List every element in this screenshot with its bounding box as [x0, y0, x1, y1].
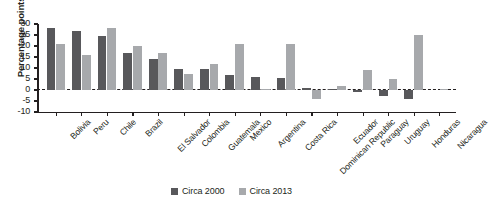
bar-nicaragua-circa-2013	[440, 89, 449, 90]
bar-dominican-republic-circa-2000	[302, 88, 311, 90]
x-axis-tick	[388, 112, 389, 116]
bar-costa-rica-circa-2013	[286, 44, 295, 90]
bar-uruguay-circa-2000	[379, 90, 388, 96]
bar-dominican-republic-circa-2013	[312, 90, 321, 99]
bar-honduras-circa-2013	[414, 35, 423, 90]
y-axis-tick-label: -5	[4, 95, 30, 105]
x-axis-tick	[209, 112, 210, 116]
y-axis-tick-label: 10	[4, 62, 30, 72]
x-axis-tick	[158, 112, 159, 116]
x-axis-tick	[184, 112, 185, 116]
bar-bolivia-circa-2013	[56, 44, 65, 90]
legend-swatch-icon	[239, 188, 246, 195]
x-axis-tick	[132, 112, 133, 116]
y-axis-tick-label: 0	[4, 84, 30, 94]
x-axis-tick	[414, 112, 415, 116]
bar-honduras-circa-2000	[404, 90, 413, 99]
legend-label: Circa 2000	[182, 186, 225, 196]
bar-mexico-circa-2000	[225, 75, 234, 90]
bar-peru-circa-2013	[82, 55, 91, 90]
bar-peru-circa-2000	[72, 31, 81, 90]
bar-costa-rica-circa-2000	[277, 78, 286, 90]
bar-brazil-circa-2013	[133, 46, 142, 90]
y-axis-tick-label: 5	[4, 73, 30, 83]
x-axis-tick	[235, 112, 236, 116]
legend-swatch-icon	[171, 188, 178, 195]
y-axis-tick	[34, 45, 38, 46]
y-axis-tick	[34, 67, 38, 68]
bar-paraguay-circa-2013	[363, 70, 372, 90]
y-axis-tick-label: 20	[4, 40, 30, 50]
bar-argentina-circa-2013	[261, 89, 270, 90]
y-axis-tick-label: -10	[4, 106, 30, 116]
bar-uruguay-circa-2013	[389, 79, 398, 90]
bar-guatemala-circa-2000	[200, 69, 209, 90]
bar-ecuador-circa-2000	[328, 89, 337, 90]
legend-item-circa-2013: Circa 2013	[239, 186, 293, 196]
x-axis-tick	[286, 112, 287, 116]
bar-colombia-circa-2013	[184, 74, 193, 91]
x-axis-tick	[311, 112, 312, 116]
y-axis-tick-label: 25	[4, 29, 30, 39]
x-axis-tick	[107, 112, 108, 116]
legend-label: Circa 2013	[250, 186, 293, 196]
chart-legend: Circa 2000 Circa 2013	[0, 186, 463, 196]
bar-ecuador-circa-2013	[337, 86, 346, 90]
x-axis-tick	[81, 112, 82, 116]
bar-chile-circa-2013	[107, 28, 116, 90]
x-axis-tick	[337, 112, 338, 116]
bar-brazil-circa-2000	[123, 53, 132, 90]
x-axis-category-label: Costa Rica	[303, 117, 339, 153]
x-axis-category-label: Chile	[117, 117, 137, 137]
bar-argentina-circa-2000	[251, 77, 260, 90]
y-axis-tick	[34, 34, 38, 35]
bar-mexico-circa-2013	[235, 44, 244, 90]
bar-colombia-circa-2000	[174, 69, 183, 90]
y-axis-tick-label: 15	[4, 51, 30, 61]
x-axis-tick	[260, 112, 261, 116]
y-axis-tick	[34, 56, 38, 57]
x-axis-line	[37, 112, 456, 113]
bar-bolivia-circa-2000	[47, 28, 56, 90]
x-axis-tick	[363, 112, 364, 116]
bar-paraguay-circa-2000	[353, 90, 362, 92]
x-axis-tick	[56, 112, 57, 116]
bar-chile-circa-2000	[98, 36, 107, 90]
y-axis-tick-label: 30	[4, 18, 30, 28]
x-axis-tick	[439, 112, 440, 116]
x-axis-category-label: Brazil	[144, 117, 166, 139]
y-axis-tick	[34, 78, 38, 79]
y-axis-tick	[34, 23, 38, 24]
legend-item-circa-2000: Circa 2000	[171, 186, 225, 196]
plot-area: 302520151050-5-10	[37, 12, 456, 100]
x-axis-category-label: Peru	[91, 117, 110, 136]
bar-guatemala-circa-2013	[210, 64, 219, 90]
y-axis-tick	[34, 100, 38, 101]
bar-el-salvador-circa-2000	[149, 59, 158, 90]
x-axis-category-label: Bolivia	[68, 117, 92, 141]
bar-el-salvador-circa-2013	[158, 53, 167, 90]
